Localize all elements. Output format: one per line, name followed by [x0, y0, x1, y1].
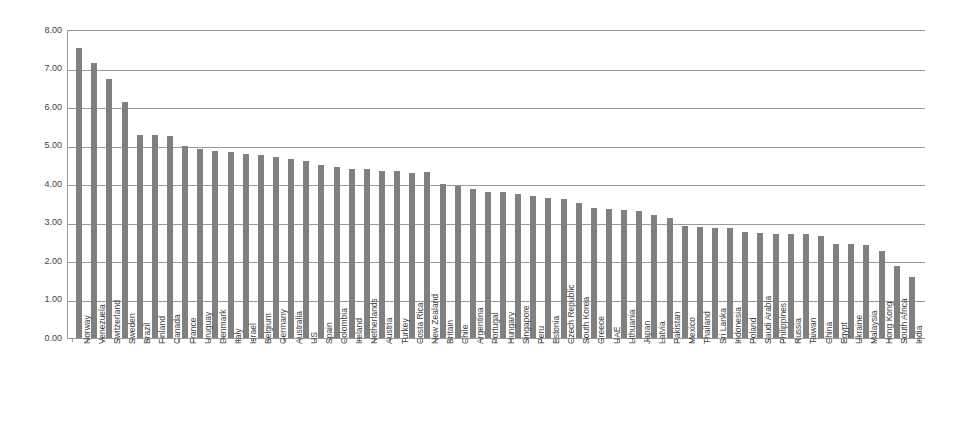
x-axis-tick-label-text: China [825, 322, 834, 344]
x-axis-tick-label-text: Thailand [703, 311, 712, 344]
bar [243, 154, 249, 338]
x-axis-tick-label-text: Netherlands [370, 298, 379, 344]
x-axis-labels: NorwayVenezuelaSwitzerlandSwedenBrazilFi… [67, 344, 924, 433]
y-axis-tick-label: 2.00 [4, 257, 62, 266]
bar [455, 186, 461, 338]
x-axis-tick-label: Chile [461, 325, 470, 344]
y-axis-tick-label: 3.00 [4, 218, 62, 227]
x-axis-tick-label: Netherlands [370, 298, 379, 344]
x-axis-tick-label-text: Colombia [340, 308, 349, 344]
x-axis-tick-label-text: Saudi Arabia [764, 296, 773, 344]
bar [636, 211, 642, 338]
x-axis-tick-label-text: Philippines [779, 303, 788, 344]
x-axis-tick-label: Norway [83, 315, 92, 344]
bar [137, 135, 143, 338]
bar [152, 135, 158, 338]
x-axis-tick-label: Canada [173, 314, 182, 344]
bar [122, 102, 128, 338]
x-axis-tick-label-text: Spain [325, 322, 334, 344]
x-axis-tick-label-text: India [915, 326, 924, 344]
x-axis-tick-label-text: Britain [446, 320, 455, 344]
x-axis-tick-label-text: Ukraine [855, 315, 864, 344]
x-axis-tick-label: India [915, 326, 924, 344]
y-axis-tick-label: 6.00 [4, 103, 62, 112]
x-axis-tick-label: Britain [446, 320, 455, 344]
y-axis-tick-label: 0.00 [4, 334, 62, 343]
x-axis-tick-label-text: South Africa [900, 298, 909, 344]
bars-container [67, 30, 924, 338]
x-axis-tick-label-text: Finland [158, 316, 167, 344]
x-axis-tick-label: Estonia [552, 316, 561, 344]
x-axis-tick-label: Ireland [355, 318, 364, 344]
x-axis-tick-label: Spain [325, 322, 334, 344]
x-axis-tick-label: Australia [295, 311, 304, 344]
bar [91, 63, 97, 338]
x-axis-tick-label: Costa Rica [416, 302, 425, 344]
x-axis-tick-label-text: Argentina [476, 308, 485, 344]
y-axis-labels: 8.007.006.005.004.003.002.001.000.00 [0, 0, 62, 433]
x-axis-tick-label-text: Hong Kong [885, 301, 894, 344]
x-axis-tick-label: Latvia [658, 321, 667, 344]
x-axis-tick-label: Taiwan [809, 318, 818, 344]
x-axis-tick-label-text: Taiwan [809, 318, 818, 344]
x-axis-tick-label-text: Sri Lanka [719, 308, 728, 344]
x-axis-tick-label: Greece [597, 316, 606, 344]
x-axis-tick-label: Finland [158, 316, 167, 344]
x-axis-tick-label-text: Malaysia [870, 310, 879, 344]
x-axis-tick-label: Israel [249, 323, 258, 344]
bar [651, 215, 657, 338]
bar [606, 209, 612, 338]
x-axis-tick-label-text: Norway [83, 315, 92, 344]
y-axis-tick-label: 7.00 [4, 64, 62, 73]
x-axis-tick-label-text: Portugal [491, 312, 500, 344]
x-axis-tick-label-text: Russia [794, 318, 803, 344]
x-axis-tick-label: South Africa [900, 298, 909, 344]
x-axis-tick-label: Austria [385, 318, 394, 344]
x-axis-tick-label-text: Pakistan [673, 311, 682, 344]
x-axis-tick-label: Brazil [143, 323, 152, 344]
x-axis-tick-label-text: Belgium [264, 313, 273, 344]
x-axis-tick-label-text: Australia [295, 311, 304, 344]
x-axis-tick-label: Hong Kong [885, 301, 894, 344]
x-axis-tick-label-text: Israel [249, 323, 258, 344]
x-axis-tick-label: Germany [279, 309, 288, 344]
x-axis-tick-label-text: Mexico [688, 317, 697, 344]
bar [379, 171, 385, 338]
y-axis-tick-label: 8.00 [4, 26, 62, 35]
bar [228, 152, 234, 338]
x-axis-tick-label-text: Czech Republic [567, 284, 576, 344]
x-axis-tick-label-text: Egypt [840, 322, 849, 344]
x-axis-tick-label-text: Estonia [552, 316, 561, 344]
x-axis-tick-label: Malaysia [870, 310, 879, 344]
y-axis-tick-label: 1.00 [4, 295, 62, 304]
x-axis-tick-label: Sweden [128, 313, 137, 344]
x-axis-tick-label: Denmark [219, 310, 228, 344]
x-axis-tick-label-text: Turkey [401, 318, 410, 344]
x-axis-tick-label: Colombia [340, 308, 349, 344]
x-axis-tick-label-text: UAE [613, 327, 622, 344]
y-axis-tick-label: 5.00 [4, 141, 62, 150]
bar [197, 149, 203, 338]
x-axis-tick-label-text: Poland [749, 318, 758, 344]
x-axis-tick-label: China [825, 322, 834, 344]
x-axis-tick-label-text: Hungary [507, 312, 516, 344]
x-axis-tick-label: US [310, 332, 319, 344]
bar [440, 184, 446, 338]
bar-chart: 8.007.006.005.004.003.002.001.000.00 Nor… [0, 0, 968, 433]
x-axis-tick-label-text: Latvia [658, 321, 667, 344]
x-axis-tick-label: Argentina [476, 308, 485, 344]
x-axis-tick-label-text: Italy [234, 328, 243, 344]
x-axis-tick-label: Uruguay [204, 312, 213, 344]
x-axis-tick-label: Turkey [401, 318, 410, 344]
x-axis-tick-label-text: Brazil [143, 323, 152, 344]
x-axis-tick-label: Hungary [507, 312, 516, 344]
x-axis-tick-label: UAE [613, 327, 622, 344]
x-axis-tick-label: Thailand [703, 311, 712, 344]
x-axis-tick-label: Switzerland [113, 300, 122, 344]
x-axis-tick-label-text: Indonesia [734, 307, 743, 344]
x-axis-tick-label: Poland [749, 318, 758, 344]
x-axis-tick-label: New Zealand [431, 294, 440, 344]
x-axis-tick-label: Italy [234, 328, 243, 344]
x-axis-tick [72, 339, 73, 342]
x-axis-tick-label-text: Singapore [522, 305, 531, 344]
